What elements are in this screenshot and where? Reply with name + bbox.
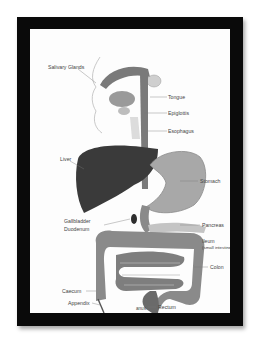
label-duodenum: Duodenum	[64, 227, 89, 232]
label-gallbladder: Gallbladder	[64, 219, 91, 224]
label-caecum: Caecum	[62, 289, 81, 294]
label-esophagus: Esophagus	[168, 129, 194, 134]
label-rectum: Rectum	[158, 305, 176, 310]
label-epiglottis: Epiglottis	[168, 111, 189, 116]
picture-frame: Salivary Glands Tongue Epiglottis Esopha…	[17, 17, 243, 326]
digestive-system-illustration	[30, 29, 230, 313]
label-ileum-sub: (small intestine)	[202, 246, 230, 250]
label-anus: anus	[136, 307, 146, 312]
label-ileum: Ileum	[202, 239, 215, 244]
label-pancreas: Pancreas	[202, 223, 224, 228]
label-colon: Colon	[210, 265, 224, 270]
label-tongue: Tongue	[168, 95, 185, 100]
label-liver: Liver	[60, 157, 71, 162]
label-salivary-glands: Salivary Glands	[48, 65, 84, 70]
diagram-canvas: Salivary Glands Tongue Epiglottis Esopha…	[30, 29, 230, 313]
label-appendix: Appendix	[68, 301, 90, 306]
label-stomach: Stomach	[200, 179, 220, 184]
